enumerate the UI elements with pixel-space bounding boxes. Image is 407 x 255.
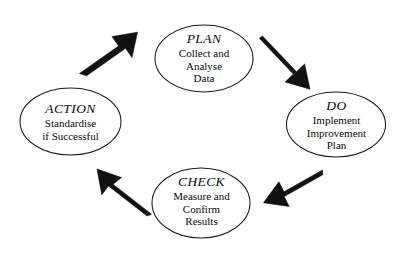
arrow-do-to-check-icon	[264, 170, 323, 207]
node-action-heading: ACTION	[20, 101, 121, 116]
node-check-body-line-2: Confirm	[152, 203, 251, 216]
node-check-body-line-1: Measure and	[152, 190, 251, 203]
node-action-body-line-1: Standardise	[20, 117, 121, 130]
node-check-heading: CHECK	[152, 174, 251, 189]
node-do-body-line-3: Plan	[287, 139, 386, 152]
node-plan-label: PLAN Collect and Analyse Data	[155, 31, 253, 85]
node-check-body-line-3: Results	[152, 215, 251, 228]
arrow-plan-to-do-icon	[259, 36, 310, 89]
node-plan-body-line-3: Data	[155, 72, 253, 85]
arrow-action-to-plan-icon	[80, 32, 138, 76]
arrow-check-to-action-icon	[97, 169, 152, 216]
node-action-body-line-2: if Successful	[20, 130, 121, 143]
node-do-body-line-2: Improvement	[287, 127, 386, 140]
node-plan-body-line-1: Collect and	[155, 47, 253, 60]
node-do-heading: DO	[287, 98, 386, 113]
pdca-cycle-diagram: PLAN Collect and Analyse Data DO Impleme…	[0, 0, 407, 255]
node-plan-heading: PLAN	[155, 31, 253, 46]
node-action-label: ACTION Standardise if Successful	[20, 101, 121, 142]
node-plan-body-line-2: Analyse	[155, 60, 253, 73]
node-check-label: CHECK Measure and Confirm Results	[152, 174, 251, 228]
node-do-body-line-1: Implement	[287, 114, 386, 127]
node-do-label: DO Implement Improvement Plan	[287, 98, 386, 152]
